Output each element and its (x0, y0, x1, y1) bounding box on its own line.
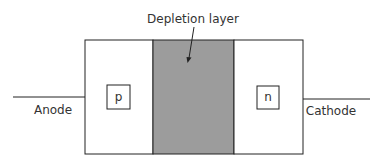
p-label: p (115, 90, 123, 104)
depletion-layer-label: Depletion layer (147, 12, 239, 26)
cathode-label: Cathode (306, 104, 356, 118)
pn-junction-diagram: p n Depletion layer Anode Cathode (0, 0, 383, 166)
n-label: n (264, 90, 272, 104)
anode-label: Anode (34, 103, 72, 117)
depletion-layer (153, 40, 234, 154)
